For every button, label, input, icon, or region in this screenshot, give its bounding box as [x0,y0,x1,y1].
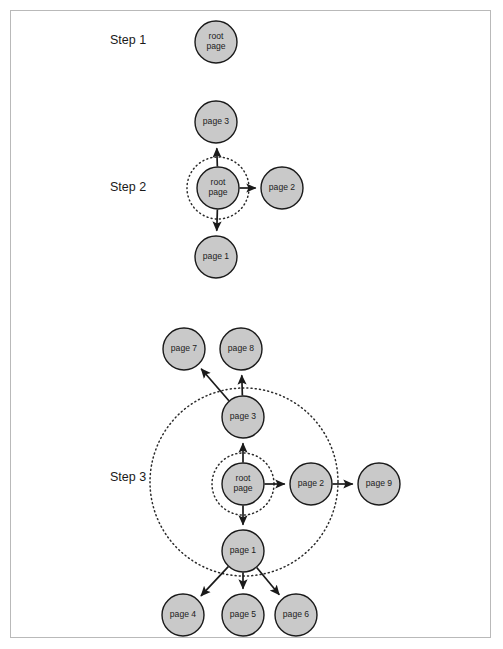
node-label: page 3 [203,116,230,126]
graph-node: rootpage [195,21,237,63]
node-label: page 4 [170,609,197,619]
node-label: page 6 [283,609,310,619]
step-label: Step 1 [110,33,146,47]
graph-node: rootpage [197,167,239,209]
graph-node: page 1 [195,236,237,278]
node-label: page 8 [228,343,255,353]
graph-node: page 2 [290,463,332,505]
node-label: page 1 [203,251,230,261]
step-labels-layer: Step 1Step 2Step 3 [110,33,146,484]
graph-node: page 7 [163,328,205,370]
edge-arrow [242,375,243,395]
graph-node: page 9 [358,463,400,505]
node-label: page [233,483,252,493]
node-label: root [236,473,251,483]
graph-node: page 4 [162,594,204,636]
diagram-canvas: rootpagepage 3rootpagepage 2page 1page 7… [0,0,503,649]
graph-node: page 3 [195,101,237,143]
node-label: page 7 [171,343,198,353]
node-label: page 3 [230,411,257,421]
edges-layer [201,148,353,596]
node-label: root [211,177,226,187]
node-label: page 1 [230,545,257,555]
edge-arrow [217,209,218,230]
graph-node: page 6 [275,594,317,636]
crawl-steps-figure: rootpagepage 3rootpagepage 2page 1page 7… [0,0,503,649]
graph-node: page 3 [222,396,264,438]
node-label: page 9 [366,478,393,488]
edge-arrow [257,568,280,595]
graph-node: page 5 [222,594,264,636]
node-label: root [209,31,224,41]
node-label: page [206,41,225,51]
step-label: Step 3 [110,470,146,484]
node-label: page 5 [230,609,257,619]
graph-node: page 1 [222,530,264,572]
step-label: Step 2 [110,180,146,194]
node-label: page 2 [298,478,325,488]
graph-node: rootpage [222,463,264,505]
node-label: page [208,187,227,197]
edge-arrow [217,148,218,166]
nodes-layer: rootpagepage 3rootpagepage 2page 1page 7… [162,21,400,636]
graph-node: page 8 [220,328,262,370]
graph-node: page 2 [261,167,303,209]
node-label: page 2 [269,182,296,192]
